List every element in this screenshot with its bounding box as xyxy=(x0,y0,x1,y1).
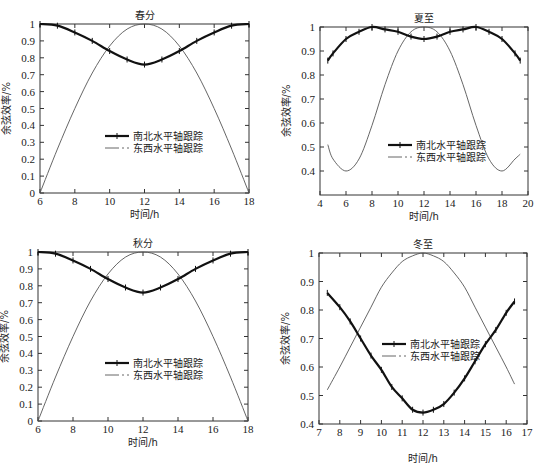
y-tick-label: 0.4 xyxy=(19,347,33,359)
y-tick-label: 0.7 xyxy=(19,297,33,309)
y-tick-label: 1 xyxy=(28,246,34,258)
legend-east-west: 东西水平轴跟踪 xyxy=(133,142,203,154)
series-north-south xyxy=(38,252,248,293)
y-tick-label: 0.9 xyxy=(300,276,314,288)
chart-title: 冬至 xyxy=(413,238,433,250)
x-tick-label: 6 xyxy=(343,197,349,209)
y-tick-label: 1 xyxy=(310,21,316,33)
x-tick-label: 8 xyxy=(70,423,76,435)
legend-north-south: 南北水平轴跟踪 xyxy=(133,130,203,142)
chart-title: 夏至 xyxy=(414,13,434,24)
x-tick-label: 13 xyxy=(438,426,450,438)
plot-frame xyxy=(320,27,528,195)
y-tick-label: 0 xyxy=(30,187,36,199)
plot-frame xyxy=(38,252,248,421)
chart-autumn-equinox: 秋分68101214161800.10.20.30.40.50.60.70.80… xyxy=(0,237,254,448)
y-tick-label: 0.6 xyxy=(19,314,33,326)
chart-grid: 春分68101214161800.10.20.30.40.50.60.70.80… xyxy=(0,0,539,468)
y-tick-label: 0.8 xyxy=(21,52,35,64)
x-tick-label: 10 xyxy=(104,195,116,207)
x-tick-label: 12 xyxy=(419,197,430,209)
x-tick-label: 14 xyxy=(173,423,185,435)
y-axis-label: 余弦效率/% xyxy=(0,310,10,363)
x-tick-label: 8 xyxy=(72,195,78,207)
y-tick-label: 0.8 xyxy=(19,280,33,292)
y-tick-label: 0.9 xyxy=(21,35,35,47)
y-tick-label: 0.5 xyxy=(301,141,315,153)
y-tick-label: 0.3 xyxy=(19,364,33,376)
x-tick-label: 8 xyxy=(369,197,375,209)
series-east-west xyxy=(38,252,248,421)
chart-winter-solstice: 冬至78910111213141516170.40.50.60.70.80.91… xyxy=(279,238,533,464)
legend: 南北水平轴跟踪东西水平轴跟踪 xyxy=(382,338,480,362)
x-axis-label: 时间/h xyxy=(130,208,160,220)
plot-frame xyxy=(40,24,249,193)
y-axis-label: 余弦效率/% xyxy=(279,312,291,365)
y-tick-label: 0.1 xyxy=(21,170,35,182)
y-tick-label: 0.7 xyxy=(300,333,314,345)
y-tick-label: 0.7 xyxy=(301,93,315,105)
y-tick-label: 0.6 xyxy=(301,117,315,129)
legend-north-south: 南北水平轴跟踪 xyxy=(416,139,486,151)
x-tick-label: 11 xyxy=(397,426,408,438)
y-tick-label: 1 xyxy=(309,247,315,259)
legend: 南北水平轴跟踪东西水平轴跟踪 xyxy=(388,139,486,163)
x-tick-label: 12 xyxy=(418,426,429,438)
x-tick-label: 6 xyxy=(37,195,43,207)
y-tick-label: 0.1 xyxy=(19,398,33,410)
y-tick-label: 0.9 xyxy=(19,263,33,275)
x-tick-label: 12 xyxy=(138,423,149,435)
series-east-west xyxy=(327,253,514,390)
legend: 南北水平轴跟踪东西水平轴跟踪 xyxy=(105,357,203,381)
chart-summer-solstice: 夏至4681012141618200.40.50.60.70.80.91时间/h… xyxy=(280,13,534,222)
y-tick-label: 0.7 xyxy=(21,69,35,81)
y-axis-label: 余弦效率/% xyxy=(280,85,292,138)
x-tick-label: 6 xyxy=(35,423,41,435)
x-tick-label: 15 xyxy=(480,426,492,438)
x-tick-label: 16 xyxy=(209,195,221,207)
y-tick-label: 0.3 xyxy=(21,136,35,148)
chart-title: 春分 xyxy=(135,10,155,21)
y-tick-label: 0.4 xyxy=(300,418,314,430)
x-tick-label: 16 xyxy=(208,423,220,435)
y-axis-label: 余弦效率/% xyxy=(0,82,12,135)
legend-east-west: 东西水平轴跟踪 xyxy=(410,350,480,362)
y-tick-label: 0.2 xyxy=(21,153,35,165)
x-tick-label: 16 xyxy=(471,197,483,209)
legend-north-south: 南北水平轴跟踪 xyxy=(410,338,480,350)
x-tick-label: 10 xyxy=(376,426,388,438)
x-tick-label: 4 xyxy=(317,197,323,209)
x-tick-label: 16 xyxy=(501,426,513,438)
x-axis-label: 时间/h xyxy=(409,210,439,222)
x-axis-label: 时间/h xyxy=(408,452,438,464)
x-tick-label: 14 xyxy=(174,195,186,207)
series-east-west xyxy=(40,24,249,193)
x-tick-label: 17 xyxy=(522,426,534,438)
x-tick-label: 14 xyxy=(459,426,471,438)
y-tick-label: 0.5 xyxy=(21,103,35,115)
legend-east-west: 东西水平轴跟踪 xyxy=(416,151,486,163)
chart-spring-equinox: 春分68101214161800.10.20.30.40.50.60.70.80… xyxy=(0,10,255,220)
y-tick-label: 0 xyxy=(28,415,34,427)
x-tick-label: 9 xyxy=(358,426,364,438)
y-tick-label: 0.2 xyxy=(19,381,33,393)
x-tick-label: 10 xyxy=(103,423,115,435)
y-tick-label: 0.5 xyxy=(300,390,314,402)
legend: 南北水平轴跟踪东西水平轴跟踪 xyxy=(105,130,203,154)
x-tick-label: 18 xyxy=(243,423,255,435)
legend-north-south: 南北水平轴跟踪 xyxy=(133,357,203,369)
y-tick-label: 0.8 xyxy=(300,304,314,316)
y-tick-label: 1 xyxy=(30,18,36,30)
y-tick-label: 0.8 xyxy=(301,69,315,81)
x-tick-label: 14 xyxy=(445,197,457,209)
y-tick-label: 0.6 xyxy=(21,86,35,98)
x-tick-label: 8 xyxy=(337,426,343,438)
y-tick-label: 0.5 xyxy=(19,331,33,343)
x-tick-label: 7 xyxy=(316,426,322,438)
y-tick-label: 0.4 xyxy=(21,119,35,131)
series-north-south xyxy=(40,24,249,65)
chart-title: 秋分 xyxy=(133,237,153,249)
y-tick-label: 0.9 xyxy=(301,45,315,57)
legend-east-west: 东西水平轴跟踪 xyxy=(133,369,203,381)
x-tick-label: 20 xyxy=(523,197,535,209)
